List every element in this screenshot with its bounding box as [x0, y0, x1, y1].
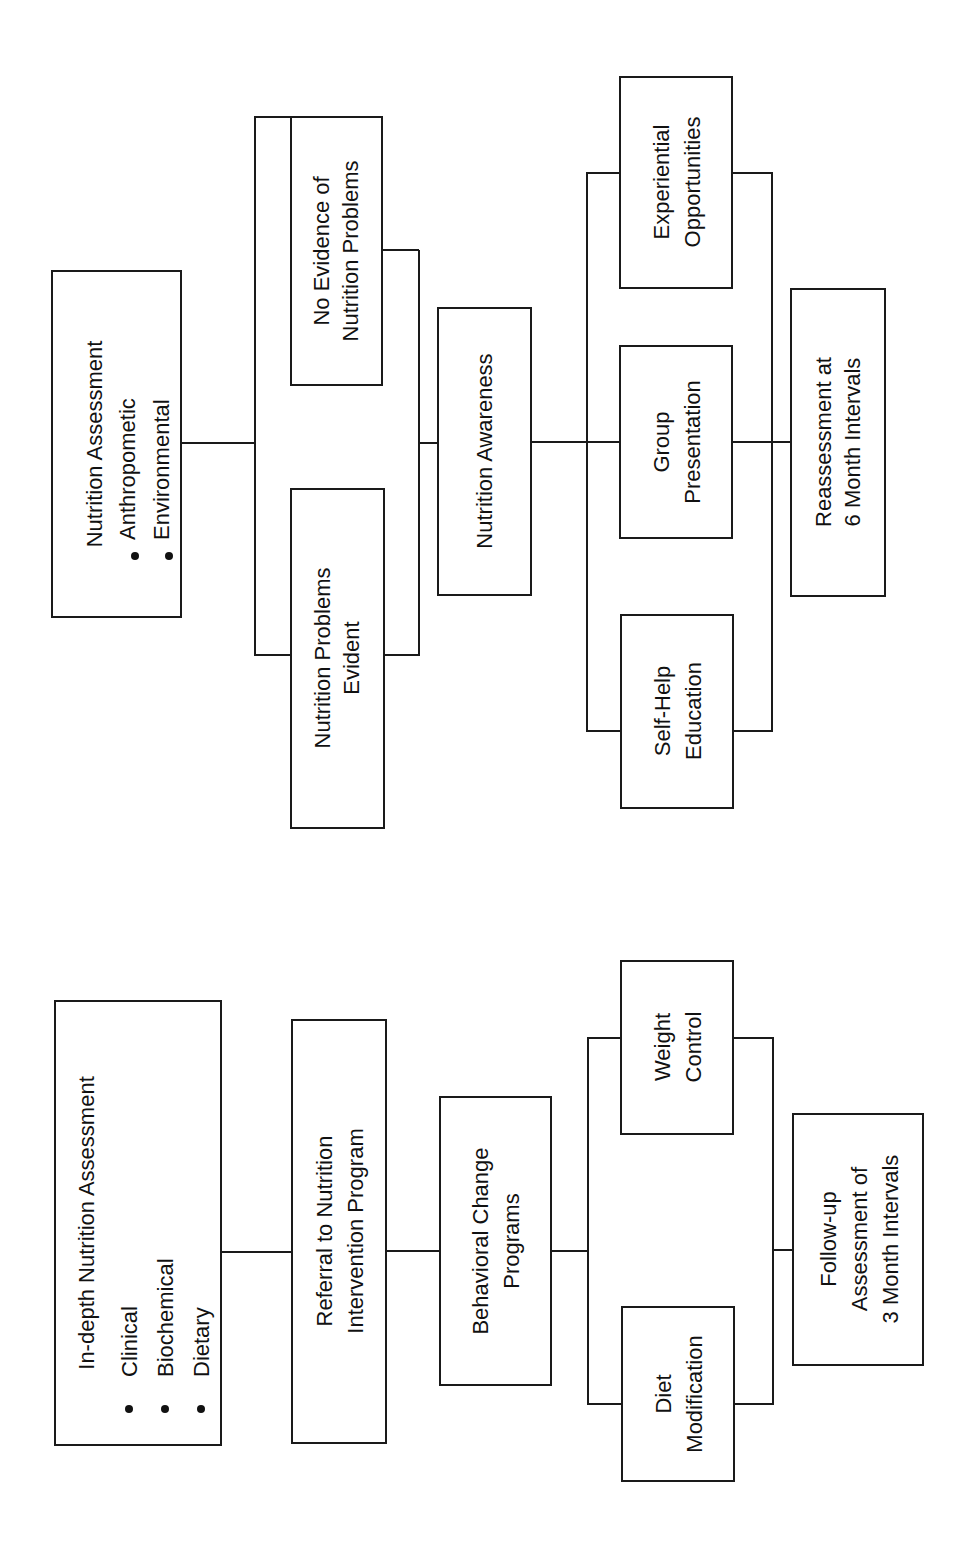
bracket — [734, 1038, 773, 1404]
box-line: No Evidence of — [309, 176, 334, 326]
in-depth-assessment-box: In-depth Nutrition Assessment Clinical B… — [55, 1001, 221, 1445]
box-title: In-depth Nutrition Assessment — [74, 1076, 99, 1369]
box-line: Reassessment at — [811, 357, 836, 527]
bracket — [587, 173, 621, 731]
bracket — [382, 250, 419, 655]
reassessment-box: Reassessment at 6 Month Intervals — [791, 289, 885, 596]
group-presentation-box: Group Presentation — [620, 346, 732, 538]
nutrition-awareness-box: Nutrition Awareness — [438, 308, 531, 595]
bullet-icon — [165, 552, 173, 560]
box-line: Self-Help — [650, 666, 675, 756]
box-line: 3 Month Intervals — [878, 1155, 903, 1324]
box-line: Intervention Program — [343, 1128, 368, 1333]
box-line: Experiential — [649, 125, 674, 240]
box-line: Assessment of — [847, 1166, 872, 1311]
box-title: Nutrition Assessment — [82, 341, 107, 548]
bullet-item: Environmental — [149, 399, 174, 540]
box-line: 6 Month Intervals — [840, 358, 865, 527]
box-line: Evident — [339, 621, 364, 694]
box-line: Diet — [651, 1374, 676, 1413]
bullet-icon — [125, 1405, 133, 1413]
box-line: Presentation — [680, 380, 705, 504]
bracket — [588, 1038, 622, 1404]
no-evidence-box: No Evidence of Nutrition Problems — [291, 117, 382, 385]
box-line: Weight — [650, 1013, 675, 1081]
self-help-education-box: Self-Help Education — [621, 615, 733, 808]
box-line: Nutrition Problems — [310, 568, 335, 749]
diet-modification-box: Diet Modification — [622, 1307, 734, 1481]
nutrition-assessment-box: Nutrition Assessment Anthropometic Envir… — [52, 271, 181, 617]
box-line: Follow-up — [816, 1191, 841, 1286]
referral-box: Referral to Nutrition Intervention Progr… — [292, 1020, 386, 1443]
bullet-item: Biochemical — [153, 1258, 178, 1377]
box-line: Opportunities — [680, 117, 705, 248]
experiential-opportunities-box: Experiential Opportunities — [620, 77, 732, 288]
box-line: Programs — [499, 1193, 524, 1288]
box-line: Group — [649, 411, 674, 472]
box-line: Modification — [682, 1335, 707, 1452]
bullet-item: Dietary — [189, 1307, 214, 1377]
box-line: Referral to Nutrition — [312, 1136, 337, 1327]
box-line: Education — [681, 662, 706, 760]
box-line: Control — [681, 1012, 706, 1083]
box-line: Behavioral Change — [468, 1147, 493, 1334]
box-line: Nutrition Awareness — [472, 353, 497, 548]
box-line: Nutrition Problems — [338, 161, 363, 342]
bottom-diagram: In-depth Nutrition Assessment Clinical B… — [55, 961, 923, 1481]
followup-assessment-box: Follow-up Assessment of 3 Month Interval… — [793, 1114, 923, 1365]
behavioral-change-box: Behavioral Change Programs — [440, 1097, 551, 1385]
bullet-item: Clinical — [117, 1306, 142, 1377]
nutrition-flow-diagram: Nutrition Assessment Anthropometic Envir… — [0, 0, 971, 1564]
bracket — [733, 173, 772, 731]
bullet-icon — [161, 1405, 169, 1413]
bullet-item: Anthropometic — [115, 398, 140, 540]
top-diagram: Nutrition Assessment Anthropometic Envir… — [52, 77, 885, 828]
bracket — [255, 117, 291, 655]
problems-evident-box: Nutrition Problems Evident — [291, 489, 384, 828]
bullet-icon — [131, 552, 139, 560]
weight-control-box: Weight Control — [621, 961, 733, 1134]
bullet-icon — [197, 1405, 205, 1413]
